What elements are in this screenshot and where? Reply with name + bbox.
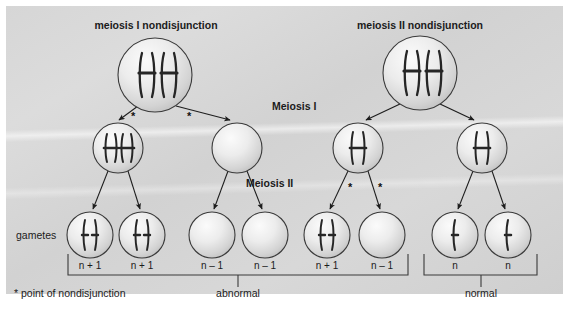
- gamete-cell-5: [304, 212, 350, 258]
- stage-label-meiosis-II: Meiosis II: [246, 178, 293, 189]
- gamete-cell-3: [189, 212, 235, 258]
- gamete-count-7: n: [433, 261, 477, 271]
- gamete-cell-6: [359, 212, 405, 258]
- arrow-daughterR2-to-gamete7: [458, 171, 473, 209]
- gamete-count-6: n – 1: [360, 261, 404, 271]
- arrow-daughterL1-to-gamete2: [128, 171, 140, 209]
- gamete-count-1: n + 1: [68, 261, 112, 271]
- star-marker-meiosisII-left: *: [348, 182, 352, 193]
- gamete-count-5: n + 1: [305, 261, 349, 271]
- gamete-count-8: n: [486, 261, 530, 271]
- gamete-count-4: n – 1: [243, 261, 287, 271]
- gamete-cell-1: [67, 212, 113, 258]
- gamete-cell-2: [119, 212, 165, 258]
- arrow-daughterL1-to-gamete1: [93, 171, 108, 209]
- arrow-parentII-to-daughter-left: [366, 104, 400, 120]
- star-marker-meiosisI-left: *: [131, 111, 135, 122]
- gamete-count-3: n – 1: [190, 261, 234, 271]
- meiosis-nondisjunction-figure: meiosis I nondisjunction meiosis II nond…: [0, 0, 569, 313]
- bracket-abnormal: [68, 254, 408, 275]
- arrow-daughterL2-to-gamete3: [214, 171, 228, 209]
- arrow-parentI-to-daughter-right: [176, 106, 230, 120]
- gamete-count-2: n + 1: [120, 261, 164, 271]
- star-marker-meiosisII-right: *: [378, 182, 382, 193]
- title-meiosis-II-nondisjunction: meiosis II nondisjunction: [350, 20, 490, 31]
- group-label-normal: normal: [446, 288, 516, 299]
- arrows-group: [93, 104, 505, 209]
- daughter-cell-left-2: [212, 123, 262, 173]
- title-meiosis-I-nondisjunction: meiosis I nondisjunction: [86, 20, 226, 31]
- stage-label-meiosis-I: Meiosis I: [272, 101, 316, 112]
- arrow-daughterR1-to-gamete5: [330, 171, 348, 209]
- arrow-daughterR2-to-gamete8: [492, 171, 505, 209]
- footnote-point-of-nondisjunction: * point of nondisjunction: [14, 288, 126, 299]
- gamete-cell-4: [242, 212, 288, 258]
- arrow-parentII-to-daughter-right: [440, 104, 474, 120]
- gametes-row-label: gametes: [16, 230, 56, 241]
- group-label-abnormal: abnormal: [198, 288, 278, 299]
- star-marker-meiosisI-right: *: [187, 111, 191, 122]
